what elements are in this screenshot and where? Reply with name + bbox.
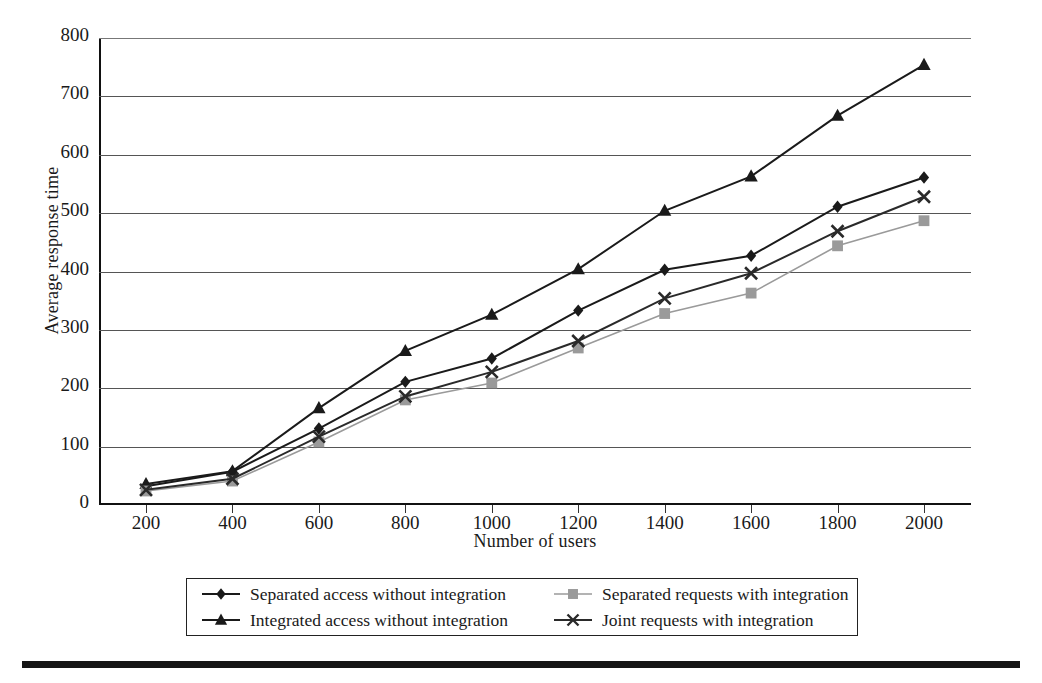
data-point-marker <box>659 292 671 304</box>
y-tick-label-0: 0 <box>19 491 89 513</box>
y-tick-label-500: 500 <box>19 199 89 221</box>
data-point-marker <box>486 366 498 378</box>
data-point-marker <box>918 191 930 203</box>
legend-entry-2[interactable]: Separated requests with integration <box>553 584 873 605</box>
y-tick-label-600: 600 <box>19 141 89 163</box>
data-point-marker <box>487 352 497 364</box>
legend-label: Separated requests with integration <box>602 584 848 605</box>
series-line <box>146 197 924 490</box>
bottom-divider-rule <box>22 661 1020 668</box>
data-point-marker <box>831 109 844 121</box>
plot-area: 0100200300400500600700800 20040060080010… <box>99 38 971 505</box>
chart-legend: Separated access without integrationSepa… <box>186 578 858 636</box>
data-point-marker <box>832 201 842 213</box>
series-2 <box>139 58 930 489</box>
data-point-marker <box>917 58 930 70</box>
y-tick-label-800: 800 <box>19 24 89 46</box>
series-line <box>146 65 924 484</box>
legend-entry-4[interactable]: Joint requests with integration <box>553 610 873 631</box>
data-point-marker <box>660 264 670 276</box>
data-point-marker <box>919 215 930 226</box>
legend-label: Separated access without integration <box>250 584 506 605</box>
data-point-marker <box>746 250 756 262</box>
series-line <box>146 178 924 487</box>
legend-marker-cross-icon <box>553 612 593 628</box>
data-point-marker <box>832 240 843 251</box>
y-tick-label-100: 100 <box>19 433 89 455</box>
series-layer <box>99 38 971 505</box>
legend-marker-diamond-icon <box>201 586 241 602</box>
data-point-marker <box>746 288 757 299</box>
legend-label: Integrated access without integration <box>250 610 508 631</box>
y-tick-label-700: 700 <box>19 83 89 105</box>
data-point-marker <box>400 376 410 388</box>
series-1 <box>141 171 929 492</box>
data-point-marker <box>832 225 844 237</box>
legend-marker-triangle-icon <box>201 612 241 628</box>
data-point-marker <box>485 308 498 320</box>
line-chart: Average response time 010020030040050060… <box>0 0 1042 570</box>
data-point-marker <box>744 169 757 181</box>
figure-container: Average response time 010020030040050060… <box>0 0 1042 683</box>
y-tick-label-400: 400 <box>19 258 89 280</box>
y-tick-label-300: 300 <box>19 316 89 338</box>
series-4 <box>140 191 930 496</box>
data-point-marker <box>486 378 497 389</box>
data-point-marker <box>572 262 585 274</box>
data-point-marker <box>573 304 583 316</box>
data-point-marker <box>745 267 757 279</box>
legend-entry-3[interactable]: Integrated access without integration <box>201 610 553 631</box>
data-point-marker <box>312 401 325 413</box>
x-axis-title: Number of users <box>99 531 971 552</box>
legend-entry-1[interactable]: Separated access without integration <box>201 584 553 605</box>
y-tick-label-200: 200 <box>19 375 89 397</box>
legend-marker-square-icon <box>553 586 593 602</box>
data-point-marker <box>659 308 670 319</box>
data-point-marker <box>919 171 929 183</box>
legend-label: Joint requests with integration <box>602 610 813 631</box>
